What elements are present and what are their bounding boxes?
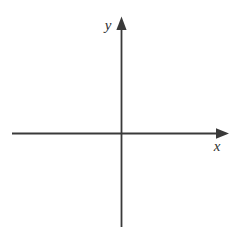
axes-canvas: y x bbox=[0, 0, 242, 236]
y-axis-label: y bbox=[103, 17, 112, 33]
coordinate-axes-figure: y x bbox=[0, 0, 242, 236]
x-axis-label: x bbox=[213, 138, 221, 154]
